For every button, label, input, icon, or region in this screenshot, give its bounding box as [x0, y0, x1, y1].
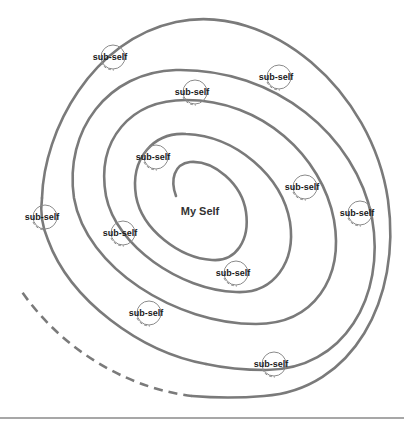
sub-self-label: sub-self	[93, 52, 129, 62]
sub-self-label: sub-self	[216, 268, 252, 278]
sub-self-label: sub-self	[175, 87, 211, 97]
sub-self-node: sub-self	[129, 301, 165, 326]
sub-self-label: sub-self	[259, 72, 295, 82]
sub-self-label: sub-self	[136, 152, 172, 162]
sub-self-label: sub-self	[285, 182, 321, 192]
sub-self-node: sub-self	[136, 145, 172, 170]
spiral-diagram: My Self sub-selfsub-selfsub-selfsub-self…	[0, 0, 404, 422]
center-label: My Self	[181, 205, 220, 217]
sub-self-label: sub-self	[103, 228, 139, 238]
sub-self-label: sub-self	[25, 212, 61, 222]
sub-self-label: sub-self	[254, 359, 290, 369]
sub-self-node: sub-self	[285, 175, 321, 200]
sub-self-label: sub-self	[340, 208, 376, 218]
sub-self-node: sub-self	[254, 352, 290, 377]
sub-self-node: sub-self	[216, 261, 252, 286]
spiral-dashed-tail	[22, 292, 192, 396]
sub-self-label: sub-self	[129, 308, 165, 318]
